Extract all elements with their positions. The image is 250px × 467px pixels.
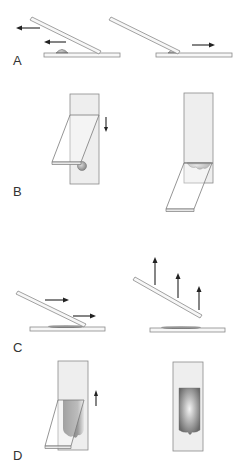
panel-label-d: D (13, 448, 22, 463)
arrow-left-icon (44, 40, 66, 45)
arrow-right-icon (73, 314, 96, 319)
base-slide (44, 53, 120, 57)
blood-smear-diagram: A B (0, 0, 250, 467)
panel-c: C (13, 257, 225, 355)
arrow-down-icon (104, 117, 108, 132)
blood-drop (56, 50, 68, 54)
spreader-slide (109, 17, 180, 54)
arrow-right-icon (192, 43, 215, 48)
arrow-right-icon (45, 298, 69, 303)
panel-label-a: A (13, 53, 22, 68)
arrow-up-icon (197, 286, 202, 310)
base-slide (156, 53, 232, 57)
spreader-slide (16, 291, 86, 327)
blood-smear (161, 326, 201, 329)
blood-smear (48, 325, 84, 328)
arrow-left-icon (16, 26, 40, 31)
panel-b: B (13, 93, 213, 212)
panel-label-c: C (13, 340, 22, 355)
spreader-edge (45, 446, 71, 449)
panel-label-b: B (13, 184, 22, 199)
spreader-slide (30, 17, 101, 54)
panel-d: D (13, 361, 203, 463)
finished-blood-smear (179, 388, 200, 435)
spreader-slide (166, 163, 212, 209)
spreader-slide (133, 277, 202, 318)
spreader-edge (52, 162, 81, 165)
arrow-up-icon (176, 273, 181, 298)
arrow-up-icon (94, 390, 98, 406)
spreader-edge (166, 209, 194, 212)
arrow-up-icon (153, 257, 158, 285)
panel-a: A (13, 17, 232, 68)
